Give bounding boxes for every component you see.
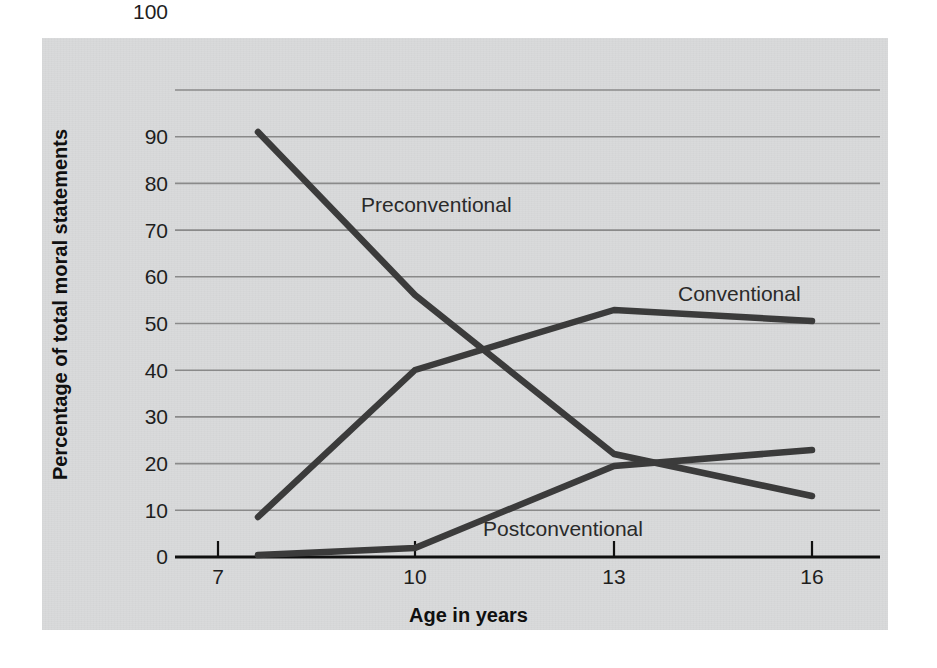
y-tick-label-40: 40 <box>108 359 168 383</box>
series-line-conventional <box>258 310 812 517</box>
y-tick-label-10: 10 <box>108 499 168 523</box>
y-tick-label-60: 60 <box>108 265 168 289</box>
y-tick-label-30: 30 <box>108 405 168 429</box>
x-axis-title: Age in years <box>0 604 937 627</box>
series-label-preconventional: Preconventional <box>361 193 512 217</box>
data-series <box>258 132 812 555</box>
series-label-postconventional: Postconventional <box>483 517 643 541</box>
series-label-conventional: Conventional <box>678 282 801 306</box>
x-tick-label-16: 16 <box>782 565 842 589</box>
y-tick-label-80: 80 <box>108 172 168 196</box>
y-tick-label-50: 50 <box>108 312 168 336</box>
y-axis-title: Percentage of total moral statements <box>49 105 72 505</box>
y-tick-label-0: 0 <box>108 545 168 569</box>
y-tick-label-70: 70 <box>108 219 168 243</box>
y-tick-label-20: 20 <box>108 452 168 476</box>
x-tick-label-7: 7 <box>188 565 248 589</box>
x-tick-label-13: 13 <box>584 565 644 589</box>
figure: 100 90 80 70 60 50 40 30 20 10 0 7 10 13… <box>0 0 937 668</box>
x-tick-label-10: 10 <box>385 565 445 589</box>
y-tick-label-100: 100 <box>108 0 168 24</box>
y-tick-label-90: 90 <box>108 125 168 149</box>
